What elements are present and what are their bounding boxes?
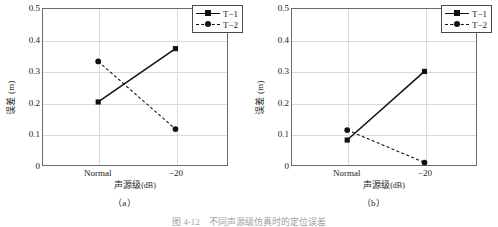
data-point-marker — [345, 137, 350, 142]
y-tick-label: 0.1 — [278, 129, 289, 139]
series-line-T-1 — [98, 49, 175, 102]
x-axis-label-b: 声源级(dB) — [291, 178, 477, 191]
legend-item-t2: T−2 — [445, 19, 487, 30]
y-tick-label: 0 — [285, 161, 290, 171]
figure-caption: 图 4-12 不同声源级仿真时的定位误差 — [0, 215, 498, 227]
series-line-T-1 — [347, 71, 424, 140]
subfigure-label-a: （a） — [0, 196, 249, 209]
y-tick-label: 0.3 — [29, 66, 40, 76]
x-tick-label: −20 — [418, 168, 432, 178]
data-point-marker — [422, 69, 427, 74]
x-tick-label: Normal — [84, 168, 112, 178]
data-point-marker — [96, 99, 101, 104]
legend-key-solid-square — [445, 8, 469, 19]
chart-panel-b: 误差 (m) 00.10.20.30.40.5 T−1 T−2 Normal−2… — [249, 0, 498, 213]
legend-key-solid-square — [196, 8, 220, 19]
y-tick-label: 0.2 — [29, 98, 40, 108]
y-tick-label: 0.1 — [29, 129, 40, 139]
x-tick-label: Normal — [333, 168, 361, 178]
y-tick-label: 0.5 — [278, 3, 289, 13]
legend-item-t2: T−2 — [196, 19, 238, 30]
legend-item-t1: T−1 — [196, 8, 238, 19]
data-point-marker — [344, 127, 350, 133]
subfigure-label-b: （b） — [249, 196, 498, 209]
legend-label-t1: T−1 — [472, 9, 487, 19]
x-tick-label: −20 — [169, 168, 183, 178]
y-tick-label: 0.3 — [278, 66, 289, 76]
legend-a: T−1 T−2 — [192, 5, 243, 33]
y-tick-label: 0 — [36, 161, 41, 171]
legend-label-t2: T−2 — [223, 20, 238, 30]
y-tick-label: 0.2 — [278, 98, 289, 108]
data-point-marker — [95, 59, 101, 65]
data-point-marker — [173, 46, 178, 51]
data-point-marker — [422, 160, 428, 166]
x-axis-label-a: 声源级(dB) — [42, 178, 228, 191]
legend-b: T−1 T−2 — [441, 5, 492, 33]
y-tick-label: 0.4 — [29, 35, 40, 45]
data-point-marker — [173, 126, 179, 132]
y-axis-tick-labels-b: 00.10.20.30.40.5 — [263, 6, 289, 166]
figure-container: 误差 (m) 00.10.20.30.40.5 T−1 T−2 Normal−2… — [0, 0, 498, 227]
legend-item-t1: T−1 — [445, 8, 487, 19]
legend-label-t1: T−1 — [223, 9, 238, 19]
series-line-T-2 — [347, 130, 424, 162]
chart-panel-a: 误差 (m) 00.10.20.30.40.5 T−1 T−2 Normal−2… — [0, 0, 249, 213]
legend-key-dashed-circle — [445, 19, 469, 30]
legend-label-t2: T−2 — [472, 20, 487, 30]
legend-key-dashed-circle — [196, 19, 220, 30]
y-tick-label: 0.5 — [29, 3, 40, 13]
y-tick-label: 0.4 — [278, 35, 289, 45]
series-line-T-2 — [98, 61, 175, 129]
y-axis-tick-labels-a: 00.10.20.30.40.5 — [14, 6, 40, 166]
